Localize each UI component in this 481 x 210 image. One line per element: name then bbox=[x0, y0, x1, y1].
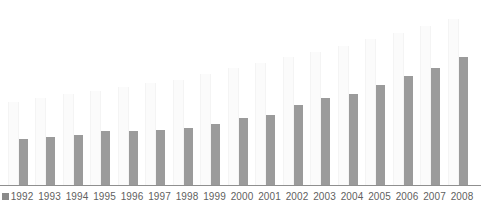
bar-dark bbox=[459, 57, 468, 185]
bar-chart: 1992199319941995199619971998199920002001… bbox=[0, 0, 481, 210]
plot-area bbox=[0, 0, 481, 185]
x-axis-tick-label: 2008 bbox=[446, 191, 478, 203]
bar-group bbox=[0, 0, 481, 185]
x-axis-tick-labels: 1992199319941995199619971998199920002001… bbox=[0, 186, 481, 210]
bar-light bbox=[448, 19, 459, 186]
